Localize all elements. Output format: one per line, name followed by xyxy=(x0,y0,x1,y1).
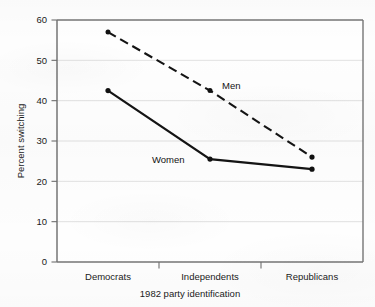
series-women-point-democrats xyxy=(105,88,110,93)
x-axis-ticks xyxy=(159,262,261,269)
ytick-label-50: 50 xyxy=(36,55,47,66)
ytick-label-20: 20 xyxy=(36,176,47,187)
series-label-men: Men xyxy=(222,80,240,91)
series-label-women: Women xyxy=(152,154,185,165)
ytick-label-30: 30 xyxy=(36,135,47,146)
x-axis-title: 1982 party identification xyxy=(140,288,240,299)
y-axis-ticks xyxy=(52,20,58,262)
series-men-point-independents xyxy=(208,88,213,93)
series-men-point-democrats xyxy=(106,30,111,35)
xtick-label-independents: Independents xyxy=(181,271,239,282)
xtick-label-republicans: Republicans xyxy=(286,271,339,282)
line-chart: 0 10 20 30 40 50 60 Percent switching De… xyxy=(0,0,375,307)
ytick-label-10: 10 xyxy=(36,216,47,227)
ytick-label-60: 60 xyxy=(36,14,47,25)
xtick-label-democrats: Democrats xyxy=(85,271,131,282)
ytick-label-40: 40 xyxy=(36,95,47,106)
series-women-point-republicans xyxy=(309,167,314,172)
series-men-point-republicans xyxy=(309,155,314,160)
series-women-point-independents xyxy=(207,157,212,162)
chart-figure: 0 10 20 30 40 50 60 Percent switching De… xyxy=(0,0,375,307)
y-axis-title: Percent switching xyxy=(15,104,26,178)
ytick-label-0: 0 xyxy=(42,256,47,267)
